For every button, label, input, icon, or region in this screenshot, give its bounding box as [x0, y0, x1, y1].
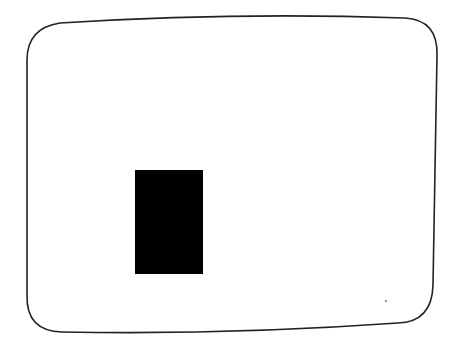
rounded-screen-frame: [27, 16, 437, 333]
dark-rectangle: [135, 170, 203, 274]
small-dot: [385, 300, 387, 302]
screen-canvas: [0, 0, 467, 346]
